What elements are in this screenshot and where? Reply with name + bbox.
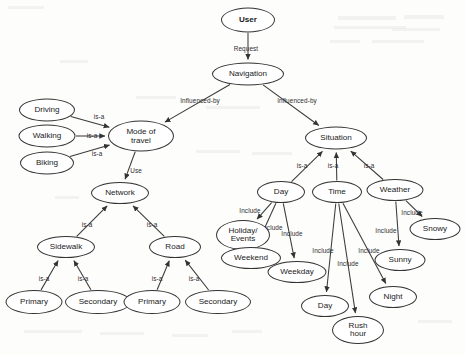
node-label: Day <box>272 188 290 196</box>
node-rd-secondary[interactable]: Secondary <box>185 290 251 314</box>
node-label: Weekend <box>232 254 270 262</box>
edge-label-time-to-time-day: Include <box>312 247 333 254</box>
concept-map-canvas: RequestInfluenced-byInfluenced-byis-ais-… <box>0 0 465 355</box>
node-label: Primary <box>18 298 50 306</box>
edge-label-sw-secondary-to-sidewalk: is-a <box>78 275 89 282</box>
edge-label-sidewalk-to-network: is-a <box>82 221 93 228</box>
edge-label-biking-to-modeoftravel: is-a <box>92 150 103 157</box>
node-label: Road <box>163 243 186 251</box>
node-label: Primary <box>136 298 168 306</box>
node-night[interactable]: Night <box>369 286 417 308</box>
node-rd-primary[interactable]: Primary <box>124 290 181 314</box>
node-label: Sunny <box>387 256 414 264</box>
edge-label-time-to-situation: is-a <box>328 162 339 169</box>
node-label: Navigation <box>227 70 269 78</box>
node-label: Situation <box>318 134 354 142</box>
node-label: Driving <box>32 106 61 114</box>
node-label: Mode oftravel <box>124 128 157 145</box>
node-label: Day <box>316 302 334 310</box>
node-network[interactable]: Network <box>91 182 149 204</box>
node-biking[interactable]: Biking <box>20 152 74 175</box>
node-label: Secondary <box>77 298 120 306</box>
node-label: Secondary <box>197 298 240 306</box>
edge-label-day-to-situation: is-a <box>297 162 308 169</box>
node-label: Time <box>326 188 348 196</box>
edge-label-road-to-network: is-a <box>147 221 158 228</box>
node-time-day[interactable]: Day <box>301 295 349 317</box>
node-walking[interactable]: Walking <box>19 125 76 148</box>
edge-label-rd-primary-to-road: is-a <box>152 275 163 282</box>
node-label: Network <box>103 189 137 197</box>
node-modeoftravel[interactable]: Mode oftravel <box>108 121 174 152</box>
node-time[interactable]: Time <box>312 181 362 203</box>
edge-label-weather-to-sunny: Include <box>375 227 396 234</box>
node-label: Weather <box>378 186 412 194</box>
node-label: Holiday/Events <box>226 227 259 244</box>
node-label: Weekday <box>278 268 316 276</box>
node-snowy[interactable]: Snowy <box>410 218 461 240</box>
node-rushhour[interactable]: Rushhour <box>332 316 384 344</box>
node-day[interactable]: Day <box>257 181 305 203</box>
edge-label-day-to-weekday: Include <box>281 230 302 237</box>
node-road[interactable]: Road <box>149 236 201 258</box>
edge-biking-to-modeoftravel <box>70 145 110 156</box>
node-sidewalk[interactable]: Sidewalk <box>37 236 95 258</box>
node-label: Biking <box>34 159 60 167</box>
edge-label-weather-to-situation: is-a <box>364 162 375 169</box>
edge-label-navigation-to-situation: Influenced-by <box>277 97 317 104</box>
node-label: Rushhour <box>347 322 370 339</box>
edge-label-walking-to-modeoftravel: is-a <box>87 132 98 139</box>
node-weather[interactable]: Weather <box>367 179 424 201</box>
edge-label-time-to-night: Include <box>358 247 379 254</box>
node-sw-primary[interactable]: Primary <box>6 290 63 314</box>
edge-label-day-to-holiday: Include <box>239 207 260 214</box>
node-user[interactable]: User <box>221 8 275 33</box>
edge-label-modeoftravel-to-network: Use <box>130 167 142 174</box>
edge-modeoftravel-to-network <box>125 152 135 179</box>
node-sunny[interactable]: Sunny <box>375 249 426 271</box>
edge-label-time-to-rushhour: Include <box>337 260 358 267</box>
edge-label-rd-secondary-to-road: is-a <box>189 275 200 282</box>
edge-label-driving-to-modeoftravel: is-a <box>94 113 105 120</box>
node-label: User <box>237 16 259 24</box>
node-holiday[interactable]: Holiday/Events <box>216 220 270 250</box>
edge-weather-to-sunny <box>396 202 399 247</box>
node-sw-secondary[interactable]: Secondary <box>65 290 131 314</box>
node-driving[interactable]: Driving <box>19 99 75 122</box>
node-weekday[interactable]: Weekday <box>268 261 327 283</box>
edge-label-sw-primary-to-sidewalk: is-a <box>39 275 50 282</box>
node-label: Snowy <box>421 225 449 233</box>
node-label: Night <box>382 293 405 301</box>
node-situation[interactable]: Situation <box>305 127 367 150</box>
node-navigation[interactable]: Navigation <box>212 63 284 86</box>
edge-label-weather-to-snowy: Include <box>401 209 422 216</box>
node-label: Sidewalk <box>48 243 84 251</box>
edge-label-navigation-to-modeoftravel: Influenced-by <box>180 97 220 104</box>
node-label: Walking <box>31 132 64 140</box>
edge-label-user-to-navigation: Request <box>234 45 259 52</box>
edge-time-to-rushhour <box>339 203 356 313</box>
edge-navigation-to-situation <box>263 85 319 126</box>
